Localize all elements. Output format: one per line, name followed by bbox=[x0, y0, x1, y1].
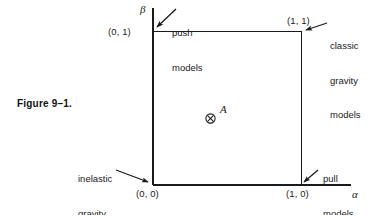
figure-caption: Figure 9–1. bbox=[17, 98, 72, 109]
corner-label-top-right: (1, 1) bbox=[287, 15, 310, 27]
y-axis-label: β bbox=[140, 4, 145, 16]
corner-label-top-left: (0, 1) bbox=[108, 26, 131, 38]
pull-models-arrow bbox=[304, 170, 318, 182]
annotation-pull-models-line1: pull bbox=[323, 173, 354, 185]
annotation-classic-gravity-models: classic gravity models bbox=[330, 17, 361, 144]
corner-label-bottom-right: (1, 0) bbox=[286, 188, 309, 200]
figure-page: Figure 9–1. β α (0, 1) (1, 1) (0, 0) (1,… bbox=[0, 0, 382, 215]
annotation-classic-gravity-models-line1: classic bbox=[330, 40, 361, 52]
annotation-pull-models: pull models bbox=[323, 150, 354, 215]
annotation-push-models-line2: models bbox=[172, 62, 203, 74]
inelastic-gravity-models-arrow bbox=[116, 170, 148, 182]
annotation-pull-models-line2: models bbox=[323, 208, 354, 216]
point-a-marker bbox=[206, 114, 215, 123]
annotation-push-models-line1: push bbox=[172, 27, 203, 39]
annotation-classic-gravity-models-line3: models bbox=[330, 109, 361, 121]
annotation-inelastic-gravity-models-line1: inelastic bbox=[78, 173, 112, 185]
annotation-push-models: push models bbox=[172, 4, 203, 96]
annotation-inelastic-gravity-models: inelastic gravity models bbox=[78, 150, 112, 215]
point-a-label: A bbox=[220, 104, 227, 116]
annotation-inelastic-gravity-models-line2: gravity bbox=[78, 208, 112, 216]
corner-label-origin: (0, 0) bbox=[136, 188, 159, 200]
annotation-classic-gravity-models-line2: gravity bbox=[330, 75, 361, 87]
